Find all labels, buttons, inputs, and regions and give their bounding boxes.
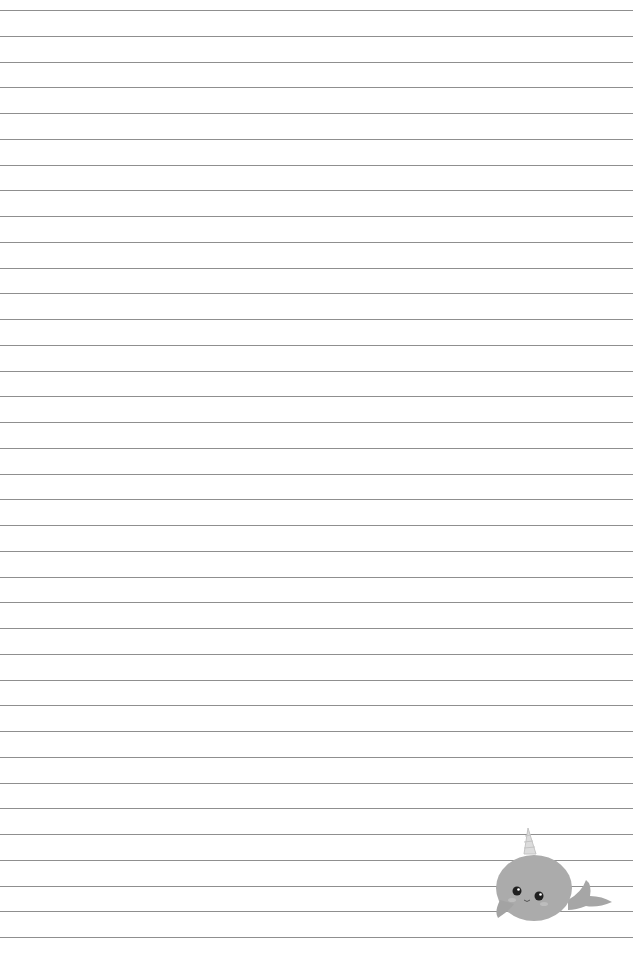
- right-eye-icon: [535, 892, 544, 901]
- ruled-line: [0, 139, 633, 140]
- ruled-line: [0, 680, 633, 681]
- ruled-line: [0, 448, 633, 449]
- ruled-line: [0, 499, 633, 500]
- left-eye-icon: [513, 887, 522, 896]
- ruled-line: [0, 602, 633, 603]
- ruled-line: [0, 113, 633, 114]
- ruled-line: [0, 371, 633, 372]
- ruled-line: [0, 216, 633, 217]
- ruled-line: [0, 190, 633, 191]
- ruled-line: [0, 628, 633, 629]
- ruled-line: [0, 242, 633, 243]
- ruled-line: [0, 654, 633, 655]
- ruled-line: [0, 577, 633, 578]
- ruled-line: [0, 783, 633, 784]
- ruled-line: [0, 165, 633, 166]
- ruled-line: [0, 551, 633, 552]
- ruled-line: [0, 87, 633, 88]
- ruled-line: [0, 293, 633, 294]
- ruled-line: [0, 345, 633, 346]
- ruled-line: [0, 808, 633, 809]
- ruled-line: [0, 757, 633, 758]
- body-icon: [496, 855, 572, 921]
- ruled-line: [0, 396, 633, 397]
- tail-icon: [568, 880, 612, 910]
- ruled-line: [0, 422, 633, 423]
- ruled-line: [0, 474, 633, 475]
- ruled-line: [0, 36, 633, 37]
- ruled-line: [0, 525, 633, 526]
- ruled-line: [0, 937, 633, 938]
- narwhal-illustration: [490, 826, 622, 926]
- ruled-line: [0, 10, 633, 11]
- ruled-line: [0, 62, 633, 63]
- ruled-line: [0, 731, 633, 732]
- lined-paper: [0, 0, 636, 958]
- ruled-line: [0, 705, 633, 706]
- ruled-line: [0, 319, 633, 320]
- ruled-line: [0, 268, 633, 269]
